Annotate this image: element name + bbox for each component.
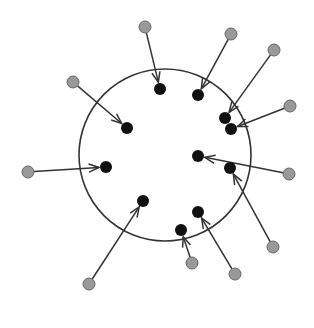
target-point (121, 122, 133, 134)
target-point (137, 195, 149, 207)
arrow-line (202, 218, 232, 269)
arrow-line (201, 39, 228, 89)
arrow-line (78, 86, 122, 124)
arrow-line (92, 207, 139, 279)
arrow-line (238, 108, 285, 126)
target-point (100, 161, 112, 173)
target-point (154, 83, 166, 95)
target-point (219, 112, 231, 124)
source-point (284, 100, 296, 112)
source-point (225, 28, 237, 40)
arrowhead-icon (202, 218, 211, 229)
source-points-group (22, 21, 296, 290)
arrow-line (233, 174, 270, 242)
diagram-canvas (0, 0, 314, 328)
target-point (192, 206, 204, 218)
target-point (192, 89, 204, 101)
source-point (139, 21, 151, 33)
target-point (225, 123, 237, 135)
target-point (175, 224, 187, 236)
arrow-line (205, 157, 283, 172)
source-point (83, 278, 95, 290)
target-point (224, 162, 236, 174)
arrow-line (229, 55, 270, 112)
boundary-circle (79, 69, 251, 241)
source-point (267, 241, 279, 253)
target-point (192, 150, 204, 162)
arrow-line (34, 167, 99, 171)
source-point (22, 166, 34, 178)
source-point (283, 168, 295, 180)
source-point (186, 257, 198, 269)
source-point (67, 76, 79, 88)
source-point (229, 268, 241, 280)
arrowhead-icon (130, 207, 139, 218)
source-point (268, 44, 280, 56)
